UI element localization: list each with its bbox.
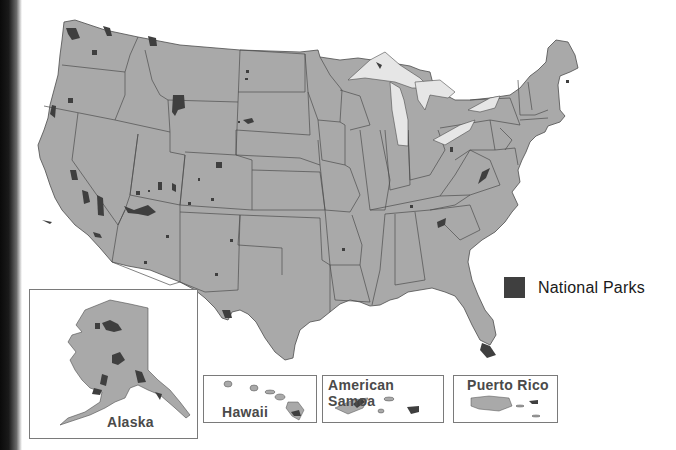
inset-label-american-samoa: American Samoa — [328, 377, 443, 409]
puerto-rico-park-marker — [529, 400, 538, 404]
inset-label-alaska: Alaska — [107, 414, 154, 430]
inset-label-hawaii: Hawaii — [222, 404, 268, 420]
legend: National Parks — [504, 277, 645, 298]
legend-swatch-national-parks — [504, 277, 525, 298]
inset-hawaii: Hawaii — [203, 375, 317, 423]
inset-alaska: Alaska — [29, 289, 198, 439]
alaska-land — [60, 300, 190, 425]
inset-label-puerto-rico: Puerto Rico — [467, 377, 549, 393]
inset-puerto-rico: Puerto Rico — [453, 375, 558, 423]
legend-label: National Parks — [538, 279, 645, 297]
puerto-rico-islands — [471, 396, 540, 417]
inset-american-samoa: American Samoa — [322, 375, 444, 423]
